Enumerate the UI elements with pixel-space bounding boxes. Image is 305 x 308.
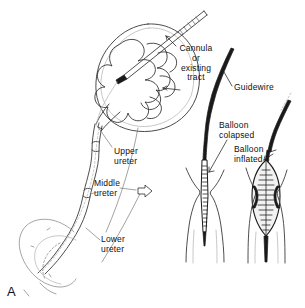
panel-letter-a: A [7, 285, 16, 298]
label-middle-ureter: Middle ureter [94, 179, 138, 199]
balloon-catheter-inflated [246, 93, 291, 263]
panel-letter-tick [24, 290, 29, 296]
cannula-graduations [180, 17, 199, 34]
label-balloon-inflated: Balloon inflated [234, 145, 284, 165]
label-guidewire: Guidewire [234, 83, 288, 93]
figure-root: Cannula or existing tract Guidewire Ball… [0, 0, 305, 308]
label-cannula: Cannula or existing tract [166, 44, 226, 83]
label-balloon-collapsed: Balloon colapsed [219, 121, 271, 141]
label-upper-ureter: Upper ureter [114, 147, 156, 167]
bladder-outline [19, 219, 76, 294]
renal-calyces [95, 39, 177, 122]
label-lower-ureter: Lower ureter [101, 235, 145, 255]
hollow-right-arrow [138, 185, 152, 197]
ureteric-guidewire-inline [42, 128, 99, 271]
ureter [38, 124, 102, 274]
